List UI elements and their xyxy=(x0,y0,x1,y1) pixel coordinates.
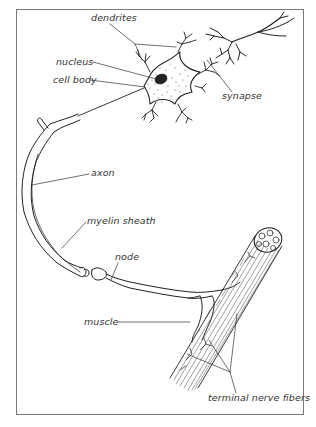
adjacent-neuron-terminal xyxy=(206,12,294,64)
label-terminal-nerve-fibers: terminal nerve fibers xyxy=(208,393,310,403)
label-node: node xyxy=(115,252,139,262)
neuron-illustration xyxy=(0,0,316,427)
label-myelin-sheath: myelin sheath xyxy=(87,216,156,226)
label-muscle: muscle xyxy=(84,317,119,327)
label-cell-body: cell body xyxy=(53,75,97,85)
label-axon: axon xyxy=(91,168,115,178)
label-synapse: synapse xyxy=(222,91,262,101)
muscle-fiber xyxy=(170,224,285,390)
label-nucleus: nucleus xyxy=(56,57,93,67)
label-dendrites: dendrites xyxy=(91,13,137,23)
